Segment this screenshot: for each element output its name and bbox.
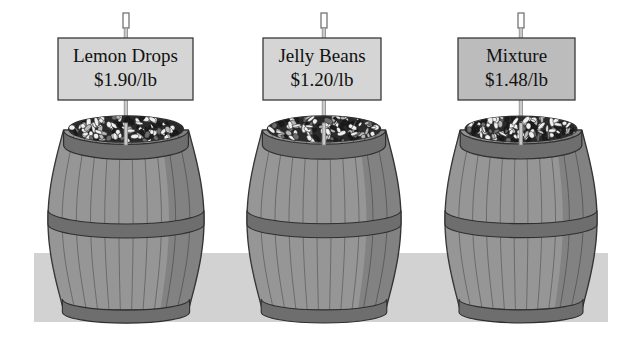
- sign-price-label: $1.20/lb: [291, 69, 354, 90]
- candy-piece: [348, 124, 352, 128]
- barrel-jelly-beans: Jelly Beans$1.20/lb: [247, 13, 401, 323]
- candy-piece: [150, 130, 154, 135]
- sign-product-name: Jelly Beans: [278, 45, 365, 66]
- scene-canvas: Lemon Drops$1.90/lbJelly Beans$1.20/lbMi…: [0, 0, 637, 349]
- sign-post-in-candy: [322, 123, 325, 145]
- barrel-mixture: Mixture$1.48/lb: [445, 13, 597, 323]
- sign-price-label: $1.90/lb: [94, 69, 157, 90]
- candy-barrels-illustration: Lemon Drops$1.90/lbJelly Beans$1.20/lbMi…: [0, 0, 637, 349]
- candy-piece: [475, 127, 480, 133]
- candy-piece: [348, 132, 351, 137]
- sign-product-name: Mixture: [486, 45, 547, 66]
- candy-piece: [115, 129, 120, 134]
- barrel-lemon-drops: Lemon Drops$1.90/lb: [48, 13, 204, 323]
- candy-piece: [526, 123, 531, 129]
- candy-piece: [116, 122, 119, 127]
- sign-post-in-candy: [519, 123, 522, 145]
- sign-product-name: Lemon Drops: [73, 45, 178, 66]
- sign-price-label: $1.48/lb: [485, 69, 548, 90]
- sign-post-in-candy: [124, 123, 127, 145]
- candy-piece: [467, 126, 472, 132]
